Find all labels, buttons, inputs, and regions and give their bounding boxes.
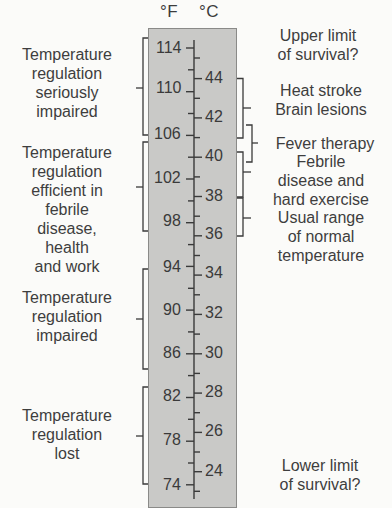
c-tick-label-38: 38 bbox=[205, 188, 223, 204]
f-tick-label-114: 114 bbox=[156, 40, 182, 56]
f-tick-label-94: 94 bbox=[163, 259, 181, 275]
c-tick-label-36: 36 bbox=[205, 226, 223, 242]
bracket-fever-therapy bbox=[246, 125, 252, 162]
c-tick-label-42: 42 bbox=[205, 109, 223, 125]
label-febrile-disease: Febrile disease and hard exercise bbox=[254, 152, 388, 209]
bracket-heat-stroke bbox=[237, 79, 243, 139]
label-heat-stroke: Heat stroke Brain lesions bbox=[254, 81, 388, 119]
f-tick-label-106: 106 bbox=[154, 126, 181, 142]
c-tick-label-28: 28 bbox=[205, 384, 223, 400]
bracket-febrile bbox=[237, 152, 243, 197]
f-tick-label-78: 78 bbox=[163, 432, 181, 448]
f-tick-label-98: 98 bbox=[163, 213, 181, 229]
label-regulation-seriously-impaired: Temperature regulation seriously impaire… bbox=[0, 45, 134, 121]
c-tick-label-40: 40 bbox=[205, 148, 223, 164]
c-tick-label-26: 26 bbox=[205, 423, 223, 439]
bracket-usual-range bbox=[237, 198, 243, 236]
c-tick-label-32: 32 bbox=[205, 305, 223, 321]
f-tick-label-110: 110 bbox=[156, 80, 182, 96]
label-regulation-efficient: Temperature regulation efficient in febr… bbox=[0, 143, 134, 276]
bracket-impaired bbox=[143, 269, 148, 369]
c-tick-label-44: 44 bbox=[205, 70, 223, 86]
c-tick-label-24: 24 bbox=[205, 463, 223, 479]
bracket-lost bbox=[143, 387, 148, 484]
f-tick-label-82: 82 bbox=[163, 388, 181, 404]
f-tick-label-86: 86 bbox=[163, 345, 181, 361]
f-tick-label-74: 74 bbox=[163, 477, 181, 493]
f-tick-label-90: 90 bbox=[163, 302, 181, 318]
bracket-seriously-impaired bbox=[143, 38, 148, 135]
label-upper-limit-of-survival: Upper limit of survival? bbox=[252, 26, 384, 64]
label-lower-limit-of-survival: Lower limit of survival? bbox=[252, 456, 388, 494]
label-regulation-impaired: Temperature regulation impaired bbox=[0, 288, 134, 345]
c-tick-label-30: 30 bbox=[205, 345, 223, 361]
bracket-efficient bbox=[143, 142, 148, 231]
f-tick-label-102: 102 bbox=[154, 170, 181, 186]
label-usual-range: Usual range of normal temperature bbox=[254, 208, 388, 265]
c-tick-label-34: 34 bbox=[205, 265, 223, 281]
label-regulation-lost: Temperature regulation lost bbox=[0, 406, 134, 463]
label-fever-therapy: Fever therapy bbox=[258, 134, 392, 153]
